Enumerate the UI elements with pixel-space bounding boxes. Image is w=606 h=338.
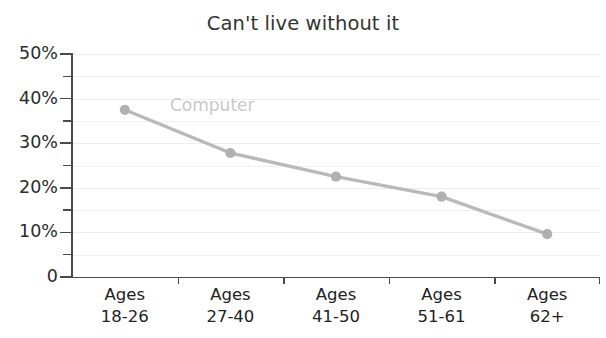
x-axis-category-line1: Ages (494, 284, 600, 306)
gridline (72, 76, 600, 77)
x-axis-category-line2: 41-50 (283, 306, 389, 328)
gridline (72, 188, 600, 189)
x-axis-tick (599, 277, 600, 284)
y-axis-major-tick (60, 98, 72, 100)
y-axis-label-layer: 010%20%30%40%50% (0, 0, 58, 338)
plot-area (72, 54, 600, 277)
x-axis-tick (178, 277, 179, 284)
x-axis-tick (494, 277, 495, 284)
series-label-computer: Computer (170, 95, 255, 115)
x-axis-category-line1: Ages (178, 284, 284, 306)
y-axis-minor-tick (63, 209, 72, 211)
y-axis-tick-label: 40% (2, 88, 58, 108)
y-axis-tick-label: 50% (2, 43, 58, 63)
y-axis-tick-label: 20% (2, 177, 58, 197)
y-axis-tick-label: 10% (2, 221, 58, 241)
x-axis-category-label: Ages62+ (494, 284, 600, 328)
chart-container: Can't live without it 010%20%30%40%50% A… (0, 0, 606, 338)
gridline (72, 99, 600, 100)
gridline (72, 210, 600, 211)
y-axis-minor-tick (63, 254, 72, 256)
y-axis-major-tick (60, 232, 72, 234)
y-axis-major-tick (60, 142, 72, 144)
y-axis-major-tick (60, 276, 72, 278)
x-axis-category-label: Ages41-50 (283, 284, 389, 328)
gridline (72, 166, 600, 167)
x-axis-line (71, 277, 600, 279)
y-axis-major-tick (60, 53, 72, 55)
x-axis-category-line1: Ages (389, 284, 495, 306)
y-axis-tick-label: 30% (2, 132, 58, 152)
x-axis-tick (283, 277, 284, 284)
x-axis-category-line1: Ages (283, 284, 389, 306)
gridline (72, 255, 600, 256)
x-axis-category-label: Ages18-26 (72, 284, 178, 328)
x-axis-category-line2: 27-40 (178, 306, 284, 328)
x-axis-category-line2: 62+ (494, 306, 600, 328)
y-axis-tick-label: 0 (2, 266, 58, 286)
gridline (72, 232, 600, 233)
y-axis-major-tick (60, 187, 72, 189)
x-axis-tick (389, 277, 390, 284)
y-axis-minor-tick (63, 165, 72, 167)
x-axis-category-label: Ages27-40 (178, 284, 284, 328)
gridline (72, 121, 600, 122)
y-axis-minor-tick (63, 120, 72, 122)
gridline (72, 143, 600, 144)
x-axis-category-line2: 18-26 (72, 306, 178, 328)
x-axis-category-line1: Ages (72, 284, 178, 306)
y-axis-minor-tick (63, 76, 72, 78)
x-axis-category-label: Ages51-61 (389, 284, 495, 328)
chart-title: Can't live without it (0, 12, 606, 35)
gridline (72, 54, 600, 55)
x-axis-category-line2: 51-61 (389, 306, 495, 328)
